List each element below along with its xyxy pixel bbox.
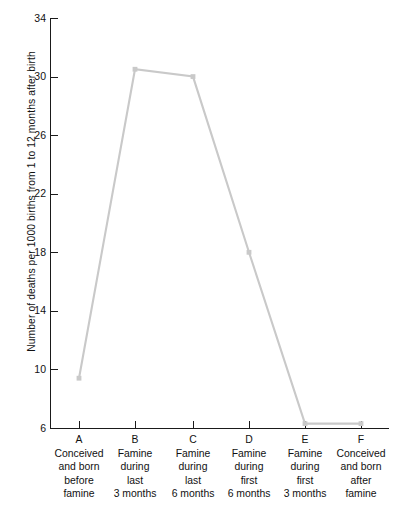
series-markers [77, 67, 364, 426]
data-series-layer [0, 0, 400, 513]
series-line [79, 69, 361, 423]
data-point-f [359, 421, 364, 426]
data-point-c [191, 74, 196, 79]
line-chart: Number of deaths per 1000 births from 1 … [0, 0, 400, 513]
data-point-e [303, 421, 308, 426]
data-point-d [247, 250, 252, 255]
data-point-b [133, 67, 138, 72]
data-point-a [77, 376, 82, 381]
